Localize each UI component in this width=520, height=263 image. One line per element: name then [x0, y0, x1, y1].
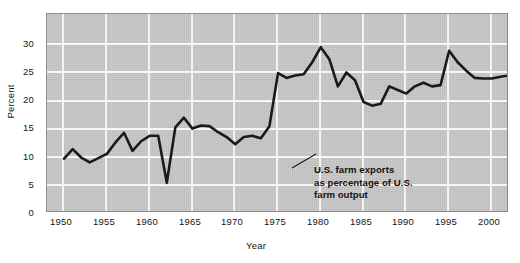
chart-figure: Percent 30 25 20 15 10 5 0 U.S. farm exp… — [0, 0, 520, 263]
y-tick-label: 10 — [8, 151, 34, 162]
x-tick-label: 1955 — [84, 216, 124, 227]
y-tick-label: 5 — [8, 179, 34, 190]
x-tick-label: 1980 — [298, 216, 338, 227]
x-tick-label: 1970 — [212, 216, 252, 227]
x-tick-label: 1990 — [383, 216, 423, 227]
data-series-line — [47, 14, 508, 212]
series-annotation: U.S. farm exports as percentage of U.S. … — [314, 164, 413, 202]
y-tick-label: 15 — [8, 122, 34, 133]
y-tick-label: 20 — [8, 94, 34, 105]
x-tick-label: 1985 — [341, 216, 381, 227]
x-axis-title: Year — [246, 240, 266, 251]
x-tick-label: 1960 — [127, 216, 167, 227]
plot-area: U.S. farm exports as percentage of U.S. … — [46, 13, 508, 212]
x-tick-label: 1995 — [426, 216, 466, 227]
y-tick-label: 30 — [8, 38, 34, 49]
x-tick-label: 1975 — [255, 216, 295, 227]
x-tick-label: 1950 — [41, 216, 81, 227]
x-tick-label: 1965 — [170, 216, 210, 227]
x-tick-label: 2000 — [469, 216, 509, 227]
y-tick-label: 25 — [8, 66, 34, 77]
y-tick-label: 0 — [8, 207, 34, 218]
